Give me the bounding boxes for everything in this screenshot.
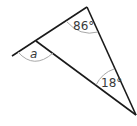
angle-label-top: 86° [73,19,94,33]
angle-label-bottom-right: 18° [101,76,122,90]
right-side-line [87,7,136,115]
angle-label-a: a [30,47,37,61]
triangle-diagram: 86° 18° a [0,0,137,126]
